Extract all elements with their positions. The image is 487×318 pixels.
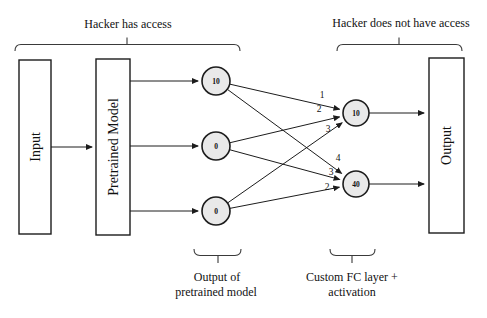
pretrained-output-annotation-line2: pretrained model	[175, 285, 257, 299]
no-access-bracket	[337, 38, 462, 52]
edge-weight-label: 1	[320, 90, 325, 100]
edge-weight-label: 3	[326, 124, 331, 134]
neuron-value: 0	[214, 207, 218, 216]
diagram-svg: Hacker has access Hacker does not have a…	[0, 0, 487, 318]
output-block-label: Output	[439, 126, 454, 165]
input-block-label: Input	[28, 132, 43, 162]
edge-n2-fc1	[230, 117, 340, 143]
edge-weight-label: 2	[325, 182, 330, 192]
neuron-value: 10	[212, 77, 220, 86]
neuron-value: 40	[352, 180, 360, 189]
edge-n2-fc2	[230, 150, 340, 180]
has-access-bracket	[15, 38, 240, 52]
hacker-no-access-label: Hacker does not have access	[332, 16, 470, 30]
custom-fc-annotation-line1: Custom FC layer +	[306, 270, 398, 284]
edge-weight-label: 3	[329, 167, 334, 177]
edge-weight-label: 4	[336, 153, 341, 163]
custom-fc-annotation-line2: activation	[328, 285, 375, 299]
architecture-diagram: Hacker has access Hacker does not have a…	[0, 0, 487, 318]
custom-fc-brace	[330, 249, 375, 263]
pretrained-model-block-label: Pretrained Model	[106, 98, 121, 196]
edge-weight-label: 2	[317, 104, 322, 114]
pretrained-output-brace	[194, 249, 241, 263]
hacker-has-access-label: Hacker has access	[84, 17, 172, 31]
neuron-value: 10	[352, 109, 360, 118]
edge-n1-fc2	[227, 89, 341, 173]
pretrained-output-annotation-line1: Output of	[194, 270, 240, 284]
neuron-value: 0	[214, 142, 218, 151]
